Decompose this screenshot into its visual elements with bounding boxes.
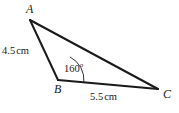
side-length-label-ab: 4.5cm	[2, 46, 29, 57]
side-bc-value: 5.5	[90, 91, 103, 102]
side-length-label-bc: 5.5cm	[90, 92, 117, 103]
side-ac-line	[30, 20, 158, 89]
triangle-diagram: A B C 4.5cm 5.5cm 160o	[0, 0, 179, 113]
side-ab-value: 4.5	[2, 45, 15, 56]
side-bc-unit: cm	[104, 91, 117, 102]
vertex-label-a: A	[26, 3, 33, 15]
vertex-label-b: B	[54, 83, 61, 95]
vertex-label-c: C	[163, 88, 171, 100]
angle-value: 160	[64, 63, 80, 74]
side-ab-unit: cm	[16, 45, 29, 56]
angle-measure-label: 160o	[64, 62, 83, 74]
side-ab-line	[30, 20, 58, 80]
degree-symbol: o	[80, 61, 84, 69]
